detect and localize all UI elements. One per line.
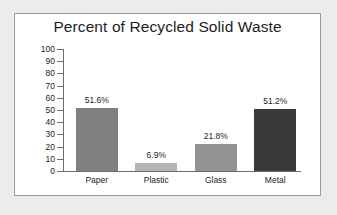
bar-value-label: 21.8% bbox=[204, 131, 228, 141]
bar-glass: 21.8% bbox=[195, 144, 237, 171]
y-axis-tick-label: 50 bbox=[46, 105, 55, 115]
y-axis-tick bbox=[57, 61, 63, 62]
x-axis-label-glass: Glass bbox=[205, 175, 227, 185]
y-axis-tick-label: 80 bbox=[46, 68, 55, 78]
y-axis-tick bbox=[57, 110, 63, 111]
bar-value-label: 51.6% bbox=[85, 95, 109, 105]
x-axis-label-paper: Paper bbox=[85, 175, 108, 185]
y-axis-tick-label: 100 bbox=[41, 44, 55, 54]
y-axis-tick bbox=[57, 49, 63, 50]
y-axis-tick-label: 30 bbox=[46, 129, 55, 139]
y-axis-tick bbox=[57, 98, 63, 99]
chart-page: Percent of Recycled Solid Waste 10090807… bbox=[0, 0, 337, 215]
y-axis-tick bbox=[57, 122, 63, 123]
y-axis-tick bbox=[57, 86, 63, 87]
y-axis-tick-label: 20 bbox=[46, 142, 55, 152]
y-axis-tick bbox=[57, 73, 63, 74]
y-axis-line bbox=[63, 49, 64, 171]
chart-title: Percent of Recycled Solid Waste bbox=[15, 18, 320, 36]
y-axis-tick bbox=[57, 134, 63, 135]
y-axis-tick-label: 60 bbox=[46, 93, 55, 103]
x-axis-line bbox=[63, 171, 301, 172]
bar-metal: 51.2% bbox=[254, 109, 296, 171]
y-axis-tick-label: 90 bbox=[46, 56, 55, 66]
y-axis-tick bbox=[57, 171, 63, 172]
y-axis-tick bbox=[57, 147, 63, 148]
bar-value-label: 51.2% bbox=[263, 96, 287, 106]
y-axis-tick-label: 10 bbox=[46, 154, 55, 164]
bar-plastic: 6.9% bbox=[135, 163, 177, 171]
y-axis-tick-label: 40 bbox=[46, 117, 55, 127]
x-axis-label-metal: Metal bbox=[265, 175, 286, 185]
plot-area: 1009080706050403020100 51.6%6.9%21.8%51.… bbox=[63, 49, 305, 171]
bar-paper: 51.6% bbox=[76, 108, 118, 171]
x-axis-label-plastic: Plastic bbox=[144, 175, 169, 185]
y-axis-tick-label: 0 bbox=[50, 166, 55, 176]
y-axis-tick-label: 70 bbox=[46, 81, 55, 91]
bar-value-label: 6.9% bbox=[147, 150, 166, 160]
y-axis-tick bbox=[57, 159, 63, 160]
chart-panel: Percent of Recycled Solid Waste 10090807… bbox=[14, 13, 321, 196]
